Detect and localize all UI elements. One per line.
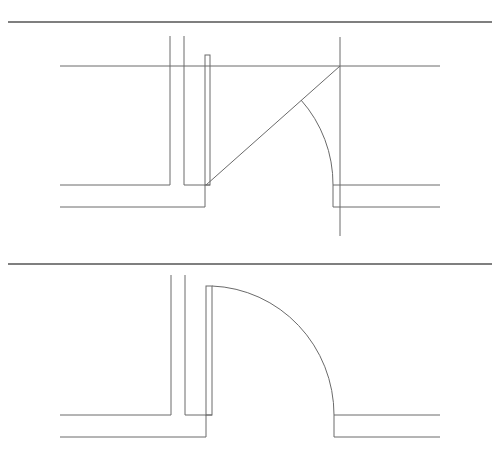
construction-diagonal	[206, 66, 340, 185]
door-diagram	[0, 0, 502, 452]
panel-final	[8, 264, 492, 437]
swing-arc	[212, 286, 334, 415]
panel-construction	[8, 22, 492, 236]
partial-swing-arc	[301, 100, 333, 185]
door-leaf	[206, 286, 212, 415]
door-leaf	[205, 55, 210, 185]
